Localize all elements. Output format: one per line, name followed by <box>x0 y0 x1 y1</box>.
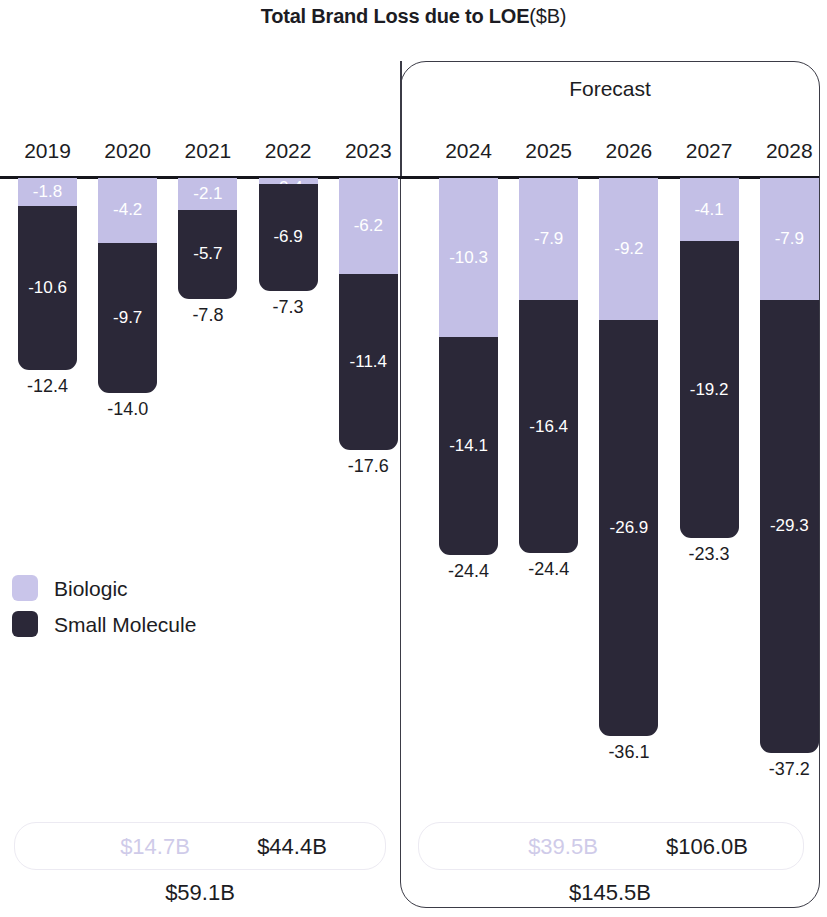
bar-2020[interactable]: -4.2-9.7-14.0 <box>98 178 157 393</box>
bar-2028-segment-small-molecule[interactable]: -29.3 <box>760 300 819 753</box>
bar-2026-segment-small-molecule[interactable]: -26.9 <box>599 320 658 736</box>
bar-2027-value-biologic: -4.1 <box>680 200 739 220</box>
bar-2027-segment-biologic[interactable]: -4.1 <box>680 178 739 241</box>
x-axis-label-2027: 2027 <box>672 138 747 163</box>
bar-2021-value-small-molecule: -5.7 <box>178 244 237 264</box>
x-axis-label-2020: 2020 <box>90 138 165 163</box>
forecast-grand-total: $145.5B <box>410 880 810 906</box>
bar-2023-total: -17.6 <box>327 456 410 477</box>
bar-2026-segment-biologic[interactable]: -9.2 <box>599 178 658 320</box>
bar-2019-total: -12.4 <box>6 376 89 397</box>
bar-2020-value-small-molecule: -9.7 <box>98 308 157 328</box>
bar-2019-segment-small-molecule[interactable]: -10.6 <box>18 206 77 370</box>
bar-2022[interactable]: -0.4-6.9-7.3 <box>259 178 318 291</box>
bar-2025-total: -24.4 <box>507 559 590 580</box>
bar-2024-segment-biologic[interactable]: -10.3 <box>439 178 498 337</box>
bar-2026-value-biologic: -9.2 <box>599 239 658 259</box>
x-axis-label-2019: 2019 <box>10 138 85 163</box>
chart-canvas: Total Brand Loss due to LOE($B) Forecast… <box>0 0 827 917</box>
bar-2024[interactable]: -10.3-14.1-24.4 <box>439 178 498 555</box>
legend-item-biologic[interactable]: Biologic <box>12 570 196 606</box>
forecast-biologic-total: $39.5B <box>488 834 638 860</box>
bar-2023-segment-small-molecule[interactable]: -11.4 <box>339 274 398 450</box>
bar-2028-segment-biologic[interactable]: -7.9 <box>760 178 819 300</box>
bar-2028[interactable]: -7.9-29.3-37.2 <box>760 178 819 753</box>
bar-2028-total: -37.2 <box>748 759 827 780</box>
bar-2019-segment-biologic[interactable]: -1.8 <box>18 178 77 206</box>
bar-2024-value-small-molecule: -14.1 <box>439 436 498 456</box>
bar-2024-total: -24.4 <box>427 561 510 582</box>
bar-2022-value-small-molecule: -6.9 <box>259 227 318 247</box>
bar-2021[interactable]: -2.1-5.7-7.8 <box>178 178 237 299</box>
bar-2020-segment-small-molecule[interactable]: -9.7 <box>98 243 157 393</box>
x-axis-label-2026: 2026 <box>591 138 666 163</box>
bar-2021-total: -7.8 <box>166 305 249 326</box>
bar-2025-segment-small-molecule[interactable]: -16.4 <box>519 300 578 553</box>
legend-label-biologic: Biologic <box>54 576 128 601</box>
legend-swatch-small-molecule-icon <box>12 611 38 637</box>
bar-2025-value-biologic: -7.9 <box>519 229 578 249</box>
chart-title: Total Brand Loss due to LOE($B) <box>0 4 827 28</box>
bar-2025[interactable]: -7.9-16.4-24.4 <box>519 178 578 553</box>
bar-2021-value-biologic: -2.1 <box>178 184 237 204</box>
x-axis-label-2028: 2028 <box>752 138 827 163</box>
bar-2019[interactable]: -1.8-10.6-12.4 <box>18 178 77 370</box>
legend-swatch-biologic-icon <box>12 575 38 601</box>
bar-2026[interactable]: -9.2-26.9-36.1 <box>599 178 658 736</box>
bar-2022-segment-small-molecule[interactable]: -6.9 <box>259 184 318 291</box>
bar-2024-value-biologic: -10.3 <box>439 248 498 268</box>
bar-2021-segment-small-molecule[interactable]: -5.7 <box>178 210 237 298</box>
bar-2020-total: -14.0 <box>86 399 169 420</box>
chart-legend: Biologic Small Molecule <box>12 570 196 642</box>
bar-2028-value-small-molecule: -29.3 <box>760 516 819 536</box>
historical-grand-total: $59.1B <box>14 880 386 906</box>
bar-2021-segment-biologic[interactable]: -2.1 <box>178 178 237 210</box>
x-axis-label-2023: 2023 <box>331 138 406 163</box>
legend-item-small-molecule[interactable]: Small Molecule <box>12 606 196 642</box>
bar-2024-segment-small-molecule[interactable]: -14.1 <box>439 337 498 555</box>
bar-2020-segment-biologic[interactable]: -4.2 <box>98 178 157 243</box>
x-axis-label-2021: 2021 <box>170 138 245 163</box>
legend-label-small-molecule: Small Molecule <box>54 612 196 637</box>
bar-2028-value-biologic: -7.9 <box>760 229 819 249</box>
x-axis-label-2024: 2024 <box>431 138 506 163</box>
bar-2023[interactable]: -6.2-11.4-17.6 <box>339 178 398 450</box>
bar-2023-value-small-molecule: -11.4 <box>339 352 398 372</box>
bar-2022-total: -7.3 <box>247 297 330 318</box>
bar-2025-value-small-molecule: -16.4 <box>519 417 578 437</box>
bar-2026-total: -36.1 <box>587 742 670 763</box>
bar-2020-value-biologic: -4.2 <box>98 200 157 220</box>
bar-2027-segment-small-molecule[interactable]: -19.2 <box>680 241 739 538</box>
historical-biologic-total: $14.7B <box>80 834 230 860</box>
bar-2027[interactable]: -4.1-19.2-23.3 <box>680 178 739 538</box>
chart-title-unit: ($B) <box>529 5 566 27</box>
chart-title-main: Total Brand Loss due to LOE <box>261 5 530 27</box>
bar-2025-segment-biologic[interactable]: -7.9 <box>519 178 578 300</box>
bar-2019-value-small-molecule: -10.6 <box>18 278 77 298</box>
forecast-region-label: Forecast <box>400 76 820 102</box>
historical-small-molecule-total: $44.4B <box>212 834 372 860</box>
x-axis-label-2025: 2025 <box>511 138 586 163</box>
bar-2019-value-biologic: -1.8 <box>18 182 77 202</box>
x-axis-label-2022: 2022 <box>251 138 326 163</box>
bar-2023-value-biologic: -6.2 <box>339 216 398 236</box>
bar-2023-segment-biologic[interactable]: -6.2 <box>339 178 398 274</box>
bar-2027-value-small-molecule: -19.2 <box>680 380 739 400</box>
bar-2026-value-small-molecule: -26.9 <box>599 518 658 538</box>
bar-2027-total: -23.3 <box>668 544 751 565</box>
forecast-small-molecule-total: $106.0B <box>622 834 792 860</box>
